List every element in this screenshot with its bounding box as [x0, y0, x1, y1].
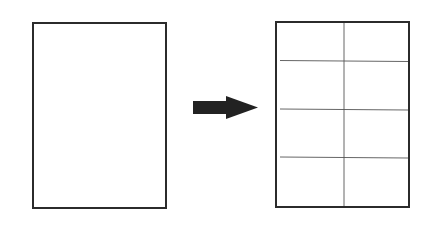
source-page [33, 23, 166, 208]
page-split-diagram [0, 0, 435, 231]
result-page [276, 22, 409, 207]
result-page-grid [276, 22, 409, 207]
arrow-right-icon [193, 96, 258, 119]
